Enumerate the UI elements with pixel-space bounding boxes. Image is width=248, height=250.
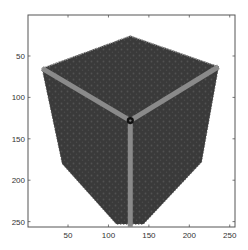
y-tick-label: 50 xyxy=(16,52,25,61)
y-tick-label: 200 xyxy=(12,176,26,185)
x-tick-label: 250 xyxy=(223,231,237,240)
cube-center-vertex-highlight xyxy=(129,119,131,121)
y-tick-label: 100 xyxy=(12,93,26,102)
x-tick-label: 100 xyxy=(102,231,116,240)
x-tick-label: 150 xyxy=(142,231,156,240)
y-tick-label: 250 xyxy=(12,218,26,227)
image-area xyxy=(42,36,218,226)
x-tick-label: 200 xyxy=(183,231,197,240)
figure: 50100150200250 50100150200250 xyxy=(0,0,248,250)
x-tick-label: 50 xyxy=(64,231,73,240)
y-tick-label: 150 xyxy=(12,135,26,144)
